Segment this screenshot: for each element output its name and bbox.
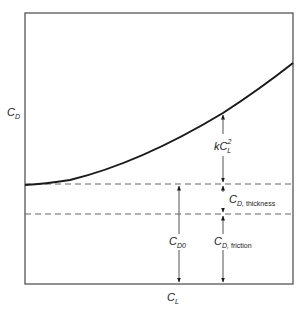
- thickness-label: CD,thickness: [229, 193, 276, 207]
- drag-polar-diagram: CD CL kC2L CD,thickness CD0 CD,friction: [0, 0, 303, 310]
- x-axis-label: CL: [167, 291, 179, 305]
- y-axis-label: CD: [7, 106, 20, 120]
- drag-curve: [25, 63, 293, 185]
- friction-label: CD,friction: [214, 235, 252, 249]
